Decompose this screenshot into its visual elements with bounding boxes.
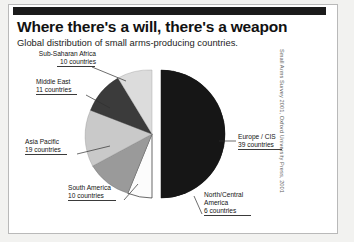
- infographic-page: Where there's a will, there's a weapon G…: [0, 0, 354, 242]
- pie-label-asia-pacific-name: Asia Pacific: [25, 138, 59, 145]
- pie-label-middle-east-name: Middle East: [36, 78, 70, 85]
- page-title: Where there's a will, there's a weapon: [17, 18, 317, 35]
- underline-middle-east: [36, 94, 77, 95]
- pie-slices: [85, 70, 225, 198]
- pie-slice-europe-cis-body: [161, 70, 225, 198]
- pie-label-sub-saharan-africa-name: Sub-Saharan Africa: [39, 50, 96, 57]
- leader-line-sub-saharan-africa: [92, 67, 126, 81]
- underline-europe-cis: [238, 149, 282, 150]
- underline-south-america: [68, 200, 116, 201]
- underline-north-central-america: [204, 215, 251, 216]
- underline-asia-pacific: [25, 154, 67, 155]
- header-rule: [13, 7, 326, 15]
- pie-label-europe-cis: Europe / CIS 39 countries: [238, 133, 276, 149]
- pie-label-asia-pacific: Asia Pacific 19 countries: [25, 138, 61, 154]
- page-subtitle: Global distribution of small arms-produc…: [17, 37, 317, 48]
- leader-line-north-central-america: [194, 196, 202, 214]
- pie-chart: Sub-Saharan Africa 10 countries Middle E…: [14, 48, 314, 224]
- source-credit-container: Small Arms Survey 2001, Oxford Universit…: [334, 0, 354, 242]
- pie-label-europe-cis-name: Europe / CIS: [238, 133, 276, 140]
- source-credit: Small Arms Survey 2001, Oxford Universit…: [279, 49, 285, 193]
- pie-label-sub-saharan-africa: Sub-Saharan Africa 10 countries: [12, 50, 96, 66]
- pie-label-south-america-name: South America: [68, 184, 111, 191]
- pie-label-north-central-america-name2: America: [204, 199, 243, 207]
- pie-label-north-central-america-name: North/Central: [204, 191, 243, 198]
- pie-label-middle-east: Middle East 11 countries: [36, 78, 71, 94]
- underline-sub-saharan-africa: [57, 66, 95, 67]
- pie-label-north-central-america: North/Central America 6 countries: [204, 191, 243, 216]
- pie-label-south-america: South America 10 countries: [68, 184, 111, 200]
